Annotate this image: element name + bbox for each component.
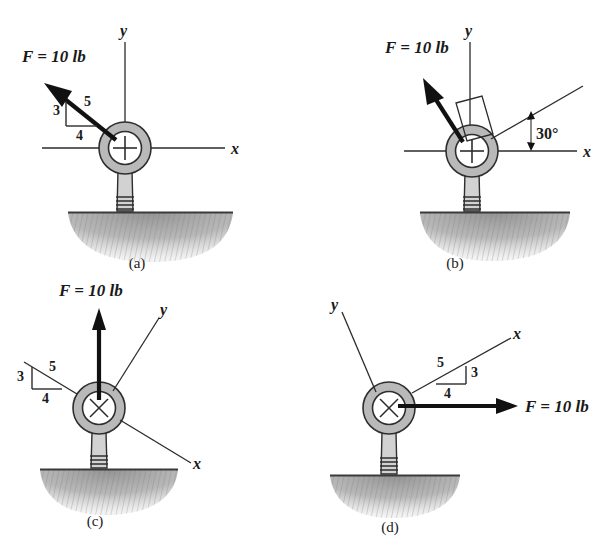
force-vector-d — [398, 398, 518, 414]
force-vector-b — [423, 78, 463, 142]
slope-vertical-label-d: 3 — [471, 365, 478, 380]
caption-a: (a) — [129, 255, 146, 272]
force-label-d: F = 10 lb — [524, 397, 589, 416]
slope-hypotenuse-label-c: 5 — [49, 359, 56, 374]
ground-d — [330, 476, 460, 519]
slope-hypotenuse-label-d: 5 — [437, 355, 444, 370]
slope-horizontal-label-c: 4 — [42, 391, 49, 406]
force-label-c: F = 10 lb — [58, 281, 123, 300]
slope-hypotenuse-label-a: 5 — [84, 94, 91, 109]
ground-c — [40, 470, 178, 516]
y-axis-label-b: y — [463, 22, 473, 40]
x-axis-c-right — [120, 420, 191, 463]
angle-label-b: 30° — [536, 125, 558, 142]
panel-d: y x F = 10 lb 3 4 5 (d) — [329, 296, 589, 536]
slope-vertical-label-c: 3 — [17, 369, 24, 384]
mechanics-figure: y x F = 10 lb 3 4 5 (a) — [0, 0, 606, 560]
figure-container: y x F = 10 lb 3 4 5 (a) — [0, 0, 606, 560]
panel-a: y x F = 10 lb 3 4 5 (a) — [21, 22, 239, 272]
eyebolt-a — [99, 122, 151, 211]
panel-c: y x F = 10 lb 3 4 5 (c) — [17, 281, 201, 530]
slope-horizontal-label-a: 4 — [76, 128, 83, 143]
slope-vertical-label-a: 3 — [53, 103, 60, 118]
force-label-a: F = 10 lb — [21, 47, 86, 66]
eyebolt-b — [446, 125, 498, 211]
eyebolt-d — [363, 382, 415, 474]
y-axis-label-d: y — [329, 296, 339, 314]
ground-b — [420, 213, 570, 262]
y-axis-label-a: y — [118, 22, 128, 40]
x-axis-label-d: x — [512, 325, 521, 342]
x-axis-label-a: x — [230, 140, 239, 157]
y-axis-label-c: y — [158, 301, 168, 319]
panel-b: y x F = 10 lb 30° (b) — [384, 22, 591, 272]
x-axis-d — [412, 338, 511, 393]
slope-horizontal-label-d: 4 — [444, 386, 451, 401]
x-axis-label-b: x — [582, 143, 591, 160]
caption-d: (d) — [381, 519, 399, 536]
ground-a — [68, 213, 233, 263]
force-label-b: F = 10 lb — [384, 38, 449, 57]
x-axis-label-c: x — [192, 455, 201, 472]
y-axis-c — [113, 318, 159, 391]
caption-b: (b) — [446, 255, 464, 272]
caption-c: (c) — [87, 513, 104, 530]
y-axis-d — [342, 312, 376, 392]
